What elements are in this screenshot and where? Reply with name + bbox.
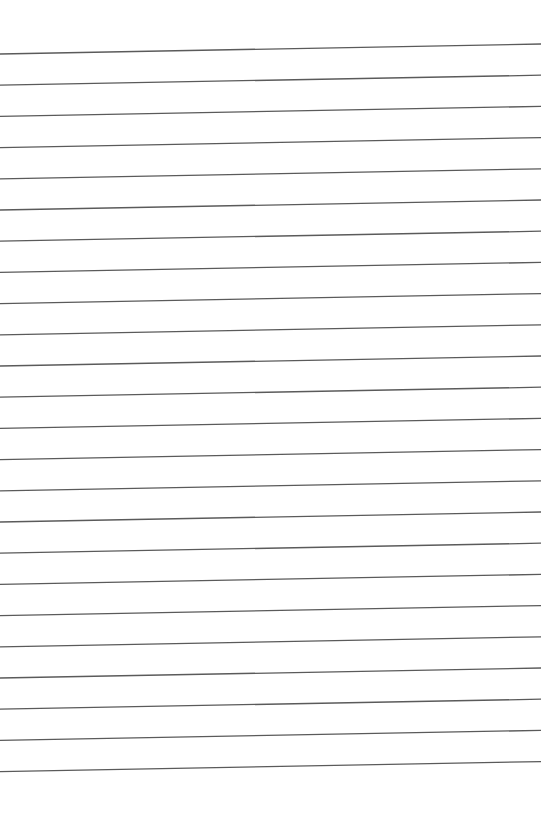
ruled-line — [0, 169, 541, 179]
ruled-line — [0, 637, 541, 647]
ruled-line — [0, 294, 541, 304]
ruled-line — [0, 668, 541, 678]
ruled-line — [0, 574, 541, 584]
ruled-line — [0, 543, 541, 553]
ruled-line — [0, 450, 541, 460]
ruled-lines — [0, 0, 541, 832]
ruled-line — [0, 200, 541, 210]
ruled-line — [0, 106, 541, 116]
ruled-line — [0, 418, 541, 428]
lined-paper-page — [0, 0, 541, 832]
ruled-line — [0, 44, 541, 54]
ruled-line — [0, 262, 541, 272]
ruled-line — [0, 231, 541, 241]
ruled-line — [0, 512, 541, 522]
ruled-line — [0, 762, 541, 772]
ruled-line — [0, 325, 541, 335]
ruled-line — [0, 387, 541, 397]
ruled-line — [0, 730, 541, 740]
ruled-line — [0, 481, 541, 491]
ruled-line — [0, 606, 541, 616]
ruled-line — [0, 356, 541, 366]
ruled-line — [0, 699, 541, 709]
ruled-line — [0, 75, 541, 85]
ruled-line — [0, 138, 541, 148]
